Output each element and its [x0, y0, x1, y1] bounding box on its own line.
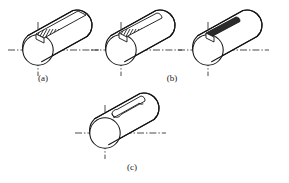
panel-b-left: (b) — [91, 10, 182, 83]
panel-c-caption: (c) — [127, 162, 137, 172]
panel-b-caption: (b) — [167, 73, 178, 83]
panel-a-caption: (a) — [38, 73, 48, 83]
figure-root: (a) — [0, 0, 289, 183]
panel-a: (a) — [8, 10, 99, 83]
panel-b-right — [178, 10, 269, 76]
keyway-figure-canvas: (a) — [0, 0, 289, 183]
panel-c-shaft-end-circle — [90, 118, 120, 148]
panel-c: (c) — [75, 93, 166, 172]
